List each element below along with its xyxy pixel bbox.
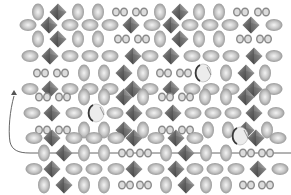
- ring-atom: [267, 149, 274, 157]
- ring-atom: [177, 69, 184, 77]
- ellipsoid-horizontal: [185, 107, 202, 119]
- ellipsoid-vertical: [32, 4, 44, 21]
- ring-atom: [257, 35, 264, 43]
- ellipsoid-horizontal: [86, 163, 103, 175]
- ellipsoid-horizontal: [187, 163, 204, 175]
- octahedron: [50, 31, 67, 48]
- ring-atom: [143, 35, 150, 43]
- atoms-layer: [20, 4, 289, 194]
- ring-atom: [267, 181, 274, 189]
- ellipsoid-horizontal: [102, 50, 119, 62]
- ellipsoid-horizontal: [266, 50, 283, 62]
- ring-atom: [237, 35, 244, 43]
- ellipsoid-vertical: [202, 122, 214, 139]
- ring-atom: [165, 69, 172, 77]
- ellipsoid-horizontal: [62, 19, 79, 31]
- ring-atom: [64, 93, 71, 101]
- ring-atom: [56, 93, 63, 101]
- ring-atom: [248, 149, 255, 157]
- ring-atom: [179, 93, 186, 101]
- ellipsoid-vertical: [200, 145, 212, 162]
- ring-atom: [159, 93, 166, 101]
- ellipsoid-horizontal: [148, 132, 165, 144]
- ellipsoid-vertical: [98, 89, 110, 106]
- ring-atom: [44, 93, 51, 101]
- cut-ellipsoid: [232, 127, 248, 145]
- ring-atom: [259, 149, 266, 157]
- ring-atom: [119, 181, 126, 189]
- ellipsoid-vertical: [259, 89, 271, 106]
- ellipsoid-vertical: [220, 89, 232, 106]
- ellipsoid-vertical: [193, 4, 205, 21]
- octahedron: [243, 17, 260, 34]
- ellipsoid-vertical: [38, 145, 50, 162]
- ellipsoid-vertical: [154, 4, 166, 21]
- ring-atom: [255, 8, 262, 16]
- ellipsoid-horizontal: [26, 132, 43, 144]
- ellipsoid-horizontal: [268, 107, 285, 119]
- ellipsoid-vertical: [98, 65, 110, 82]
- lattice-canvas: [0, 0, 291, 195]
- ring-atom: [64, 126, 71, 134]
- ellipsoid-vertical: [259, 65, 271, 82]
- ellipsoid-horizontal: [66, 107, 83, 119]
- ellipsoid-horizontal: [26, 163, 43, 175]
- ring-atom: [242, 8, 249, 16]
- ellipsoid-vertical: [199, 89, 211, 106]
- octahedron: [163, 17, 180, 34]
- octahedron: [116, 65, 133, 82]
- ellipsoid-horizontal: [207, 163, 224, 175]
- ellipsoid-vertical: [78, 145, 90, 162]
- ellipsoid-vertical: [213, 4, 225, 21]
- ellipsoid-horizontal: [62, 50, 79, 62]
- ellipsoid-horizontal: [272, 163, 289, 175]
- ellipsoid-horizontal: [107, 107, 124, 119]
- ring-atom: [54, 69, 61, 77]
- octahedron: [41, 17, 58, 34]
- ring-atom: [113, 8, 120, 16]
- ring-atom: [56, 126, 63, 134]
- ellipsoid-horizontal: [225, 107, 242, 119]
- ellipsoid-horizontal: [22, 50, 39, 62]
- ring-atom: [259, 181, 266, 189]
- ellipsoid-vertical: [32, 31, 44, 48]
- ring-atom: [145, 149, 152, 157]
- octahedron: [178, 145, 195, 162]
- ring-atom: [135, 35, 142, 43]
- ring-atom: [133, 8, 140, 16]
- ring-atom: [62, 69, 69, 77]
- ring-atom: [248, 181, 255, 189]
- octahedron: [125, 48, 142, 65]
- lattice-diagram: [0, 0, 291, 195]
- ellipsoid-horizontal: [205, 107, 222, 119]
- octahedron: [56, 145, 73, 162]
- octahedron: [56, 177, 73, 194]
- arrow-head-icon: [11, 90, 17, 95]
- ellipsoid-horizontal: [102, 19, 119, 31]
- ellipsoid-horizontal: [142, 50, 159, 62]
- octahedron: [44, 105, 61, 122]
- ring-atom: [167, 93, 174, 101]
- ellipsoid-horizontal: [62, 83, 79, 95]
- ring-atom: [123, 35, 130, 43]
- ellipsoid-vertical: [213, 31, 225, 48]
- cut-ellipsoid: [88, 104, 104, 122]
- ellipsoid-horizontal: [66, 132, 83, 144]
- ellipsoid-vertical: [137, 89, 149, 106]
- ring-atom: [34, 69, 41, 77]
- ellipsoid-horizontal: [222, 19, 239, 31]
- ring-atom: [157, 69, 164, 77]
- ellipsoid-vertical: [78, 65, 90, 82]
- ellipsoid-horizontal: [146, 107, 163, 119]
- octahedron: [163, 48, 180, 65]
- ring-atom: [245, 35, 252, 43]
- cut-ellipsoid: [195, 64, 211, 82]
- ring-atom: [137, 149, 144, 157]
- ellipsoid-vertical: [220, 177, 232, 194]
- ellipsoid-vertical: [92, 31, 104, 48]
- octahedron: [123, 17, 140, 34]
- ellipsoid-vertical: [72, 4, 84, 21]
- ellipsoid-horizontal: [86, 132, 103, 144]
- ellipsoid-vertical: [92, 4, 104, 21]
- ellipsoid-vertical: [72, 31, 84, 48]
